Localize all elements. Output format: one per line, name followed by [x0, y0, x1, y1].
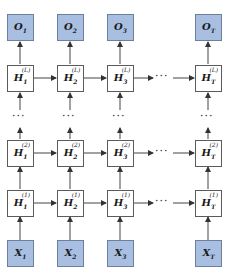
hidden-1-node-1: H(1)1	[7, 190, 34, 217]
node-label: X	[202, 247, 210, 258]
input-node-T: XT	[195, 240, 222, 267]
ellipsis-layer-col-2: ···	[62, 110, 76, 123]
output-node-2: O2	[57, 14, 84, 41]
node-superscript: (L)	[22, 66, 31, 73]
node-superscript: (L)	[122, 66, 131, 73]
ellipsis-row-2: ···	[155, 145, 169, 158]
hidden-L-node-1: H(L)1	[7, 65, 34, 92]
hidden-L-node-3: H(L)3	[107, 65, 134, 92]
node-subscript: 2	[73, 203, 77, 210]
node-subscript: 1	[23, 153, 27, 160]
node-superscript: (L)	[210, 66, 219, 73]
hidden-L-node-T: H(L)T	[195, 65, 222, 92]
node-superscript: (2)	[122, 141, 131, 148]
node-superscript: (1)	[122, 191, 131, 198]
node-label: H	[64, 72, 73, 83]
node-label: H	[114, 72, 123, 83]
node-label: O	[14, 21, 23, 32]
hidden-2-node-3: H(2)3	[107, 140, 134, 167]
node-label: O	[114, 21, 123, 32]
hidden-1-node-T: H(1)T	[195, 190, 222, 217]
node-label: H	[14, 197, 23, 208]
input-node-2: X2	[57, 240, 84, 267]
hidden-L-node-2: H(L)2	[57, 65, 84, 92]
node-subscript: 2	[73, 27, 77, 34]
ellipsis-layer-col-T: ···	[200, 110, 214, 123]
node-label: H	[202, 72, 211, 83]
node-label: O	[64, 21, 73, 32]
node-label: H	[14, 147, 23, 158]
node-subscript: 1	[22, 253, 26, 260]
hidden-1-node-3: H(1)3	[107, 190, 134, 217]
node-subscript: 1	[23, 78, 27, 85]
node-subscript: 3	[123, 78, 127, 85]
ellipsis-row-1: ···	[155, 195, 169, 208]
input-node-3: X3	[107, 240, 134, 267]
node-label: H	[64, 147, 73, 158]
node-superscript: (L)	[72, 66, 81, 73]
hidden-2-node-1: H(2)1	[7, 140, 34, 167]
node-subscript: 3	[123, 27, 127, 34]
node-subscript: 3	[123, 203, 127, 210]
output-node-T: OT	[195, 14, 222, 41]
node-subscript: 1	[23, 203, 27, 210]
node-label: H	[64, 197, 73, 208]
node-label: H	[14, 72, 23, 83]
output-node-3: O3	[107, 14, 134, 41]
node-label: H	[114, 197, 123, 208]
hidden-1-node-2: H(1)2	[57, 190, 84, 217]
node-subscript: T	[211, 203, 215, 210]
node-subscript: 2	[73, 153, 77, 160]
node-superscript: (1)	[22, 191, 31, 198]
node-subscript: 2	[73, 78, 77, 85]
node-label: H	[202, 197, 211, 208]
node-subscript: 2	[72, 253, 76, 260]
hidden-2-node-2: H(2)2	[57, 140, 84, 167]
node-superscript: (1)	[210, 191, 219, 198]
node-superscript: (2)	[72, 141, 81, 148]
ellipsis-layer-col-1: ···	[12, 110, 26, 123]
node-subscript: T	[211, 153, 215, 160]
node-label: H	[114, 147, 123, 158]
node-subscript: T	[211, 27, 215, 34]
node-subscript: T	[211, 78, 215, 85]
node-superscript: (2)	[210, 141, 219, 148]
node-label: O	[202, 21, 211, 32]
node-subscript: 3	[123, 153, 127, 160]
node-subscript: T	[210, 253, 214, 260]
input-node-1: X1	[7, 240, 34, 267]
hidden-2-node-T: H(2)T	[195, 140, 222, 167]
node-label: H	[202, 147, 211, 158]
node-superscript: (2)	[22, 141, 31, 148]
ellipsis-layer-col-3: ···	[112, 110, 126, 123]
output-node-1: O1	[7, 14, 34, 41]
node-subscript: 3	[122, 253, 126, 260]
ellipsis-row-L: ···	[155, 70, 169, 83]
node-superscript: (1)	[72, 191, 81, 198]
node-subscript: 1	[23, 27, 27, 34]
